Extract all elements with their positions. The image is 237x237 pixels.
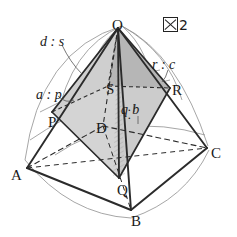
vertex-label-B: B — [131, 214, 141, 229]
ratio-colon-vertical: .. — [128, 103, 131, 119]
vertex-label-R: R — [172, 83, 182, 98]
ratio-b-denominator: b — [132, 103, 139, 117]
vertex-label-D: D — [96, 121, 107, 136]
ratio-label-a-p: a : p — [36, 88, 62, 102]
figure-box-icon — [163, 17, 178, 32]
figure-number-text: 2 — [179, 17, 189, 33]
figure-number: 2 — [163, 17, 189, 33]
vertex-label-Q: Q — [117, 183, 128, 198]
ratio-label-r-c: r : c — [152, 58, 175, 72]
vertex-label-C: C — [211, 146, 221, 161]
ratio-label-q-b: q..b — [121, 93, 139, 119]
vertex-label-A: A — [11, 168, 22, 183]
figure-container: 2 O A B C D P Q R S d : s a : p r : c q.… — [0, 0, 237, 237]
ratio-label-d-s: d : s — [40, 35, 64, 49]
vertex-label-O: O — [112, 18, 123, 33]
geometry-drawing — [0, 0, 237, 237]
vertex-label-S: S — [106, 82, 114, 97]
vertex-label-P: P — [48, 115, 56, 130]
ratio-q-numerator: q — [121, 102, 128, 117]
